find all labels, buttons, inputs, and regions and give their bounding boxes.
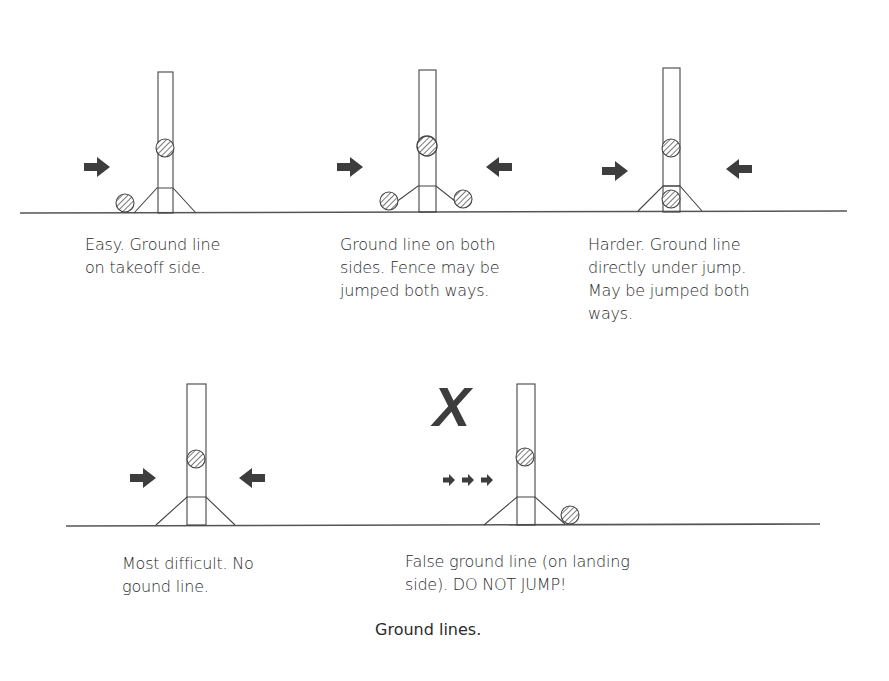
figure-title: Ground lines. xyxy=(375,620,481,639)
ground-line-bottom xyxy=(66,524,820,526)
arrow-right-icon xyxy=(84,157,110,177)
rail-ball xyxy=(417,136,437,156)
ground-pole-ball-under xyxy=(662,190,680,208)
fence-base xyxy=(392,186,460,205)
false-ground-pole-ball xyxy=(561,506,579,524)
panel-easy xyxy=(84,72,196,213)
arrow-left-icon xyxy=(726,159,752,179)
panel-both-sides xyxy=(337,70,512,212)
caption-most-difficult: Most difficult. No gound line. xyxy=(122,552,254,598)
ground-pole-ball xyxy=(116,194,134,212)
small-arrow-icon xyxy=(443,474,455,486)
arrow-right-icon xyxy=(337,157,363,177)
rail-ball xyxy=(662,139,680,157)
caption-easy: Easy. Ground line on takeoff side. xyxy=(85,233,220,279)
panel-harder xyxy=(602,68,752,212)
caption-both-sides: Ground line on both sides. Fence may be … xyxy=(340,233,499,302)
arrow-left-icon xyxy=(486,157,512,177)
panel-false-ground-line: X xyxy=(430,375,579,525)
small-arrow-icon xyxy=(462,474,474,486)
arrow-right-icon xyxy=(130,468,156,488)
small-arrow-icon xyxy=(481,474,493,486)
caption-false-ground-line: False ground line (on landing side). DO … xyxy=(405,550,630,596)
rail-ball xyxy=(187,450,205,468)
caption-harder: Harder. Ground line directly under jump.… xyxy=(588,233,749,325)
fence-base xyxy=(484,497,565,525)
rail-ball xyxy=(156,139,174,157)
arrow-right-icon xyxy=(602,161,628,181)
ground-pole-ball-takeoff xyxy=(380,192,398,210)
x-mark-icon: X xyxy=(430,375,474,438)
fence-base xyxy=(156,497,235,525)
rail-ball xyxy=(516,448,534,466)
fence-base xyxy=(134,188,196,213)
ground-pole-ball-landing xyxy=(454,190,472,208)
arrow-left-icon xyxy=(239,468,265,488)
panel-most-difficult xyxy=(130,384,265,525)
